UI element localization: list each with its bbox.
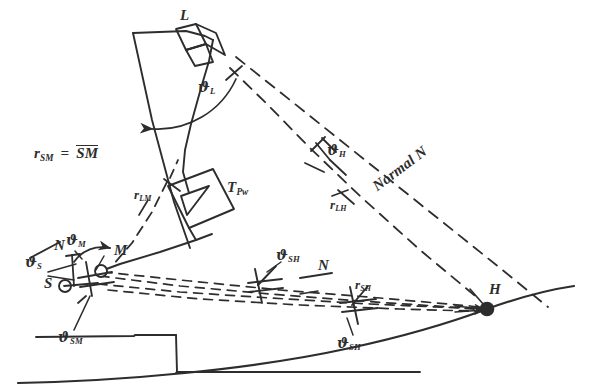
- label-normal-N-middle: N: [318, 258, 329, 273]
- equation-lhs-sub: SM: [40, 153, 53, 163]
- label-angle-theta-SH-upper: ϑSH: [276, 248, 300, 264]
- r-sub-SH: SH: [360, 284, 371, 293]
- normal-N-middle: [300, 273, 332, 278]
- theta-glyph-SH-upper: ϑ: [276, 247, 288, 263]
- angle-arc-theta-L: [152, 79, 236, 129]
- theta-glyph-SM: ϑ: [58, 329, 70, 345]
- device-sub-Pw: Pw: [236, 187, 248, 197]
- theta-glyph-SH-lower: ϑ: [337, 335, 349, 351]
- equation-equals: =: [60, 145, 69, 161]
- label-angle-theta-L: ϑL: [198, 80, 215, 96]
- range-line-r-LH-dashed: [230, 68, 480, 300]
- device-box-TPw: [168, 169, 234, 240]
- theta-glyph-H: ϑ: [327, 142, 339, 158]
- theta-sub-M: M: [78, 239, 86, 249]
- label-angle-theta-SH-lower: ϑSH: [337, 336, 361, 352]
- label-point-H: H: [489, 282, 501, 297]
- equation-rhs-overline: SM: [76, 145, 98, 162]
- r-sub-LM: LM: [139, 194, 151, 203]
- leader-theta-SM: [74, 296, 90, 330]
- theta-glyph-S: ϑ: [25, 254, 37, 270]
- label-range-r-LM: rLM: [134, 188, 151, 203]
- label-angle-theta-S: ϑS: [25, 255, 42, 271]
- leader-to-H: [470, 289, 484, 305]
- device-glyph-T: T: [227, 179, 236, 195]
- sighting-triangle-solid: [133, 31, 213, 248]
- theta-sub-L: L: [210, 86, 215, 96]
- label-range-r-SH: rSH: [355, 278, 371, 293]
- theta-sub-SH-upper: SH: [288, 254, 300, 264]
- label-angle-theta-M: ϑM: [66, 233, 86, 249]
- theta-sub-H: H: [339, 149, 346, 159]
- label-normal-N-left: N: [54, 238, 65, 253]
- label-angle-theta-H: ϑH: [327, 143, 346, 159]
- theta-sub-SM: SM: [70, 336, 83, 346]
- label-range-r-LH: rLH: [330, 198, 346, 213]
- theta-glyph-L: ϑ: [198, 79, 210, 95]
- equation-r-SM: rSM = SM: [34, 145, 98, 163]
- diagram-vector-art: [0, 0, 595, 392]
- label-point-M: M: [114, 243, 128, 258]
- range-line-r-LM-upper-dashed: [170, 160, 178, 178]
- terrain-curve-right: [18, 286, 574, 383]
- label-angle-theta-SM: ϑSM: [58, 330, 83, 346]
- label-point-S: S: [44, 276, 53, 291]
- theta-glyph-M: ϑ: [66, 232, 78, 248]
- range-lines-r-SH-dashed: [98, 272, 487, 311]
- theta-sub-S: S: [37, 261, 42, 271]
- label-device-TPw: TPw: [227, 180, 248, 197]
- angle-hatch-S-cluster: [64, 254, 114, 303]
- label-point-L: L: [180, 8, 189, 23]
- diagram-canvas: L M S H ϑL ϑH ϑM ϑS ϑSM ϑSH ϑSH rLM rLH …: [0, 0, 595, 392]
- tick-marks-LH: [226, 66, 325, 172]
- point-H-marker: [481, 303, 494, 316]
- theta-sub-SH-lower: SH: [349, 342, 361, 352]
- leader-theta-SH-lower: [347, 318, 353, 335]
- r-sub-LH: LH: [335, 204, 346, 213]
